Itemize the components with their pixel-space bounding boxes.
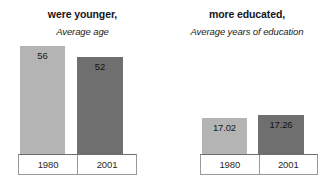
chart-panel-more-educated: more educated, Average years of educatio… — [165, 0, 329, 176]
axis-label-box-average-age: 1980 2001 — [18, 154, 137, 175]
bar-1980-average-age: 56 — [20, 46, 65, 154]
axis-label-box-years-education: 1980 2001 — [200, 154, 318, 175]
chart-panel-were-younger: were younger, Average age 56 52 1980 200… — [0, 0, 165, 176]
plot-area-more-educated: 17.02 17.26 1980 2001 — [165, 0, 329, 176]
axis-label-1980-average-age: 1980 — [19, 155, 77, 174]
axis-label-1980-years-education: 1980 — [201, 155, 259, 174]
plot-area-were-younger: 56 52 1980 2001 — [0, 0, 165, 176]
bar-2001-years-education: 17.26 — [258, 115, 304, 154]
bar-value-1980-years-education: 17.02 — [202, 122, 247, 133]
bar-value-2001-average-age: 52 — [77, 61, 123, 72]
bar-value-2001-years-education: 17.26 — [258, 119, 304, 130]
bar-1980-years-education: 17.02 — [202, 118, 247, 154]
bar-value-1980-average-age: 56 — [20, 50, 65, 61]
axis-label-2001-average-age: 2001 — [77, 155, 136, 174]
bar-2001-average-age: 52 — [77, 57, 123, 154]
axis-label-2001-years-education: 2001 — [259, 155, 318, 174]
